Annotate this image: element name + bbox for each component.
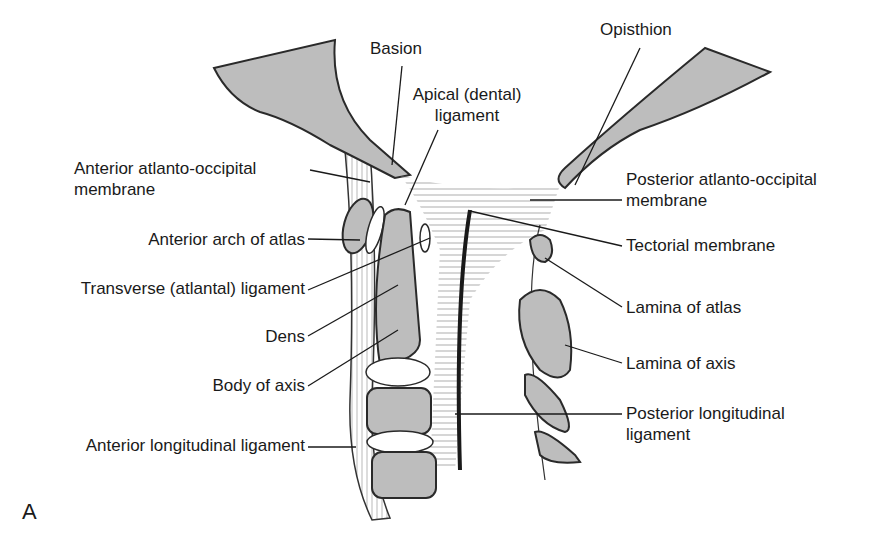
label-posterior-atlanto-occipital-line1: Posterior atlanto-occipital bbox=[626, 169, 817, 190]
label-lamina-axis: Lamina of axis bbox=[626, 353, 736, 374]
label-posterior-longitudinal-line2: ligament bbox=[626, 424, 785, 445]
label-transverse-ligament: Transverse (atlantal) ligament bbox=[81, 278, 305, 299]
label-dens: Dens bbox=[265, 326, 305, 347]
anatomy-figure: Basion Apical (dental) ligament Opisthio… bbox=[0, 0, 879, 542]
label-anterior-longitudinal: Anterior longitudinal ligament bbox=[86, 435, 305, 456]
label-tectorial-membrane: Tectorial membrane bbox=[626, 235, 775, 256]
label-posterior-atlanto-occipital-line2: membrane bbox=[626, 190, 817, 211]
label-posterior-atlanto-occipital: Posterior atlanto-occipital membrane bbox=[626, 169, 817, 211]
label-opisthion: Opisthion bbox=[600, 19, 672, 40]
label-apical-ligament-line1: Apical (dental) bbox=[407, 84, 527, 105]
label-body-axis: Body of axis bbox=[212, 375, 305, 396]
label-posterior-longitudinal-line1: Posterior longitudinal bbox=[626, 403, 785, 424]
occipital-bone-posterior bbox=[559, 48, 771, 188]
label-anterior-arch-atlas: Anterior arch of atlas bbox=[148, 229, 305, 250]
label-anterior-atlanto-occipital-line1: Anterior atlanto-occipital bbox=[74, 158, 256, 179]
dens bbox=[376, 209, 420, 365]
spine-illustration bbox=[0, 0, 879, 542]
panel-letter: A bbox=[22, 499, 37, 525]
label-anterior-atlanto-occipital: Anterior atlanto-occipital membrane bbox=[74, 158, 256, 200]
label-apical-ligament-line2: ligament bbox=[407, 105, 527, 126]
label-lamina-atlas: Lamina of atlas bbox=[626, 297, 741, 318]
label-anterior-atlanto-occipital-line2: membrane bbox=[74, 179, 256, 200]
label-basion: Basion bbox=[370, 38, 422, 59]
label-apical-ligament: Apical (dental) ligament bbox=[407, 84, 527, 126]
label-posterior-longitudinal: Posterior longitudinal ligament bbox=[626, 403, 785, 445]
